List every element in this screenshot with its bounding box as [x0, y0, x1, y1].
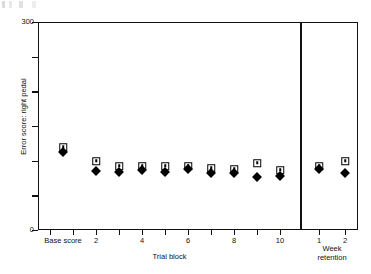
x-tick — [142, 230, 143, 235]
x-tick-label-8: 8 — [232, 236, 236, 245]
x-tick-label-6: 6 — [186, 236, 190, 245]
y-axis-min-label: 0 — [12, 225, 34, 234]
x-tick — [319, 230, 320, 235]
y-tick — [32, 22, 38, 23]
x-tick — [73, 230, 74, 235]
x-tick — [50, 230, 51, 235]
x-axis-title-text: Trial block — [153, 252, 187, 261]
x-tick — [345, 230, 346, 235]
x-tick-label-10: 10 — [276, 236, 284, 245]
y-tick — [32, 161, 38, 162]
x-axis-title: Trial block — [0, 252, 371, 261]
x-tick — [96, 230, 97, 235]
x-tick-label-4: 4 — [140, 236, 144, 245]
x-tick-label-retention-1: 1 — [317, 236, 321, 245]
panel-divider-line — [300, 22, 302, 230]
x-tick — [211, 230, 212, 235]
x-tick — [188, 230, 189, 235]
x-tick-label-retention-2: 2 — [343, 236, 347, 245]
data-point-square — [253, 159, 261, 167]
y-tick — [32, 91, 38, 92]
x-tick — [257, 230, 258, 235]
y-axis-max-label: 300 — [12, 17, 34, 26]
y-tick — [32, 57, 38, 58]
data-point-square — [341, 157, 349, 165]
y-tick — [32, 195, 38, 196]
x-tick — [234, 230, 235, 235]
x-tick-label-base-score: Base score — [44, 236, 82, 245]
plot-area — [38, 22, 358, 230]
scan-artifact — [2, 1, 42, 8]
data-point-square — [92, 157, 100, 165]
x-tick — [165, 230, 166, 235]
x-tick — [280, 230, 281, 235]
figure-canvas: 300 0 Error score: right pedal Base scor… — [0, 0, 371, 274]
x-tick — [119, 230, 120, 235]
y-tick — [32, 230, 38, 231]
y-tick — [32, 126, 38, 127]
y-axis-title: Error score: right pedal — [19, 47, 28, 187]
x-tick-label-2: 2 — [94, 236, 98, 245]
